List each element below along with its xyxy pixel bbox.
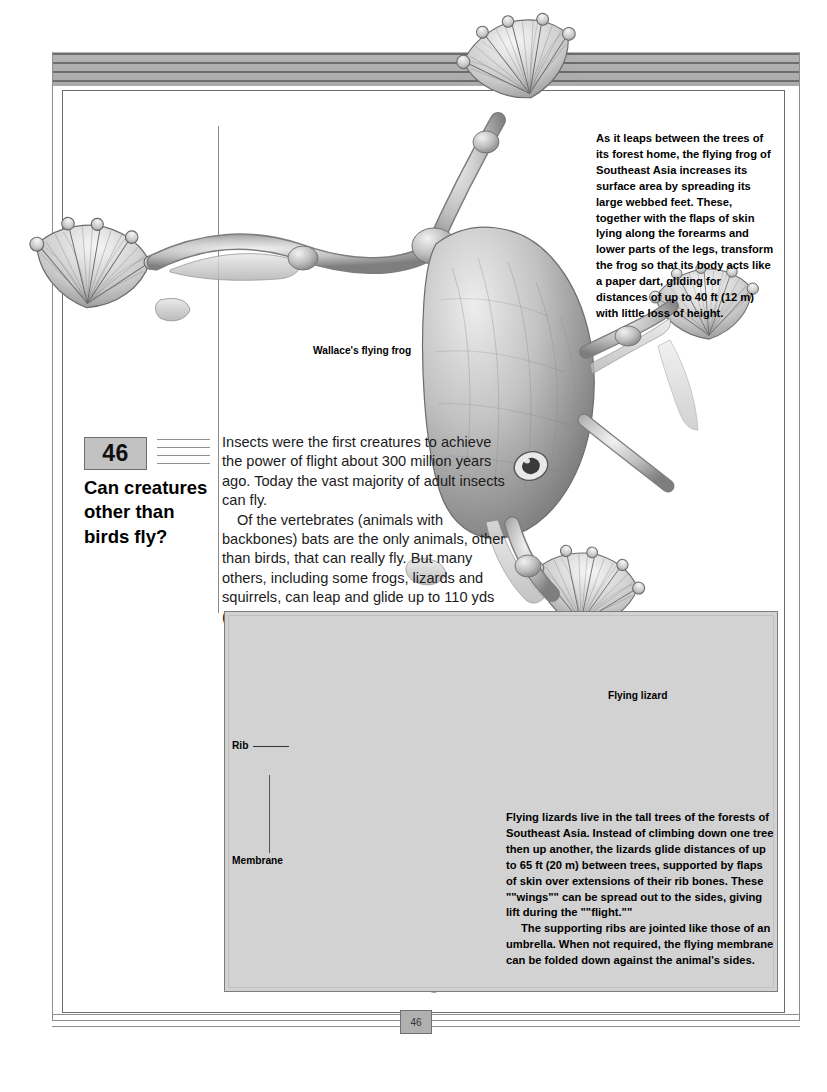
header-rule-2: [52, 62, 800, 64]
header-rule-3: [52, 71, 800, 73]
page-title: Can creatures other than birds fly?: [84, 476, 219, 549]
heading-rule-lines: [157, 437, 210, 470]
lizard-caption: Flying lizards live in the tall trees of…: [506, 810, 774, 969]
page-edge-line-right: [799, 52, 800, 1020]
rib-leader-line: [253, 746, 289, 747]
lizard-caption-paragraph-2: The supporting ribs are jointed like tho…: [506, 921, 774, 969]
footer-page-number-box: 46: [400, 1010, 432, 1034]
label-wallaces-flying-frog: Wallace's flying frog: [313, 345, 411, 356]
label-rib: Rib: [232, 740, 248, 751]
label-flying-lizard: Flying lizard: [608, 690, 667, 701]
body-paragraph-1: Insects were the first creatures to achi…: [222, 433, 514, 511]
question-number: 46: [102, 440, 129, 467]
frog-caption: As it leaps between the trees of its for…: [596, 131, 774, 322]
label-membrane: Membrane: [232, 855, 283, 866]
membrane-leader-line: [269, 775, 270, 853]
question-number-box: 46: [84, 437, 147, 470]
header-rule-1: [52, 53, 800, 55]
lizard-caption-paragraph-1: Flying lizards live in the tall trees of…: [506, 810, 774, 921]
page-edge-line-left: [52, 52, 53, 1020]
book-page: 46 Can creatures other than birds fly? I…: [0, 0, 827, 1092]
header-rule-4: [52, 80, 800, 82]
body-paragraph-2: Of the vertebrates (animals with backbon…: [222, 511, 514, 627]
footer-page-number: 46: [410, 1017, 421, 1028]
main-body-text: Insects were the first creatures to achi…: [222, 433, 514, 627]
